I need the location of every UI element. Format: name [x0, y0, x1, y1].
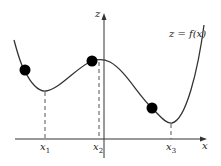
z-axis-arrow-icon	[102, 13, 107, 20]
point-1	[20, 65, 31, 76]
tick-label-x2: x2	[93, 141, 103, 155]
tick-label-x1: x1	[40, 141, 50, 155]
curve-label: z = f(x)	[168, 28, 206, 39]
point-2	[87, 56, 98, 67]
x-axis-label: x	[202, 140, 208, 151]
function-curve	[14, 25, 204, 123]
z-axis-label: z	[94, 8, 101, 19]
point-3	[147, 103, 158, 114]
tick-label-x3: x3	[166, 141, 176, 155]
function-diagram: z x z = f(x) x1 x2 x3	[0, 0, 221, 166]
